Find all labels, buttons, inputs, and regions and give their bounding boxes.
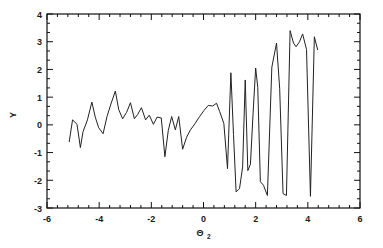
- chart-background: [0, 0, 383, 248]
- x-tick-label: 6: [357, 214, 362, 224]
- y-tick-label: 1: [37, 93, 42, 103]
- line-chart-svg: -6-4-20246-3-2-101234 Y Θ 2: [0, 0, 383, 248]
- y-axis-title: Y: [8, 112, 18, 118]
- y-tick-label: -2: [34, 176, 42, 186]
- y-tick-label: 4: [37, 10, 42, 20]
- y-tick-label: -1: [34, 148, 42, 158]
- x-axis-title: Θ: [196, 228, 203, 238]
- x-tick-label: -2: [147, 214, 155, 224]
- y-tick-label: -3: [34, 204, 42, 214]
- x-tick-label: -4: [95, 214, 103, 224]
- y-tick-label: 3: [37, 37, 42, 47]
- x-tick-label: 2: [253, 214, 258, 224]
- chart-figure: -6-4-20246-3-2-101234 Y Θ 2: [0, 0, 383, 248]
- y-tick-label: 0: [37, 120, 42, 130]
- y-tick-label: 2: [37, 65, 42, 75]
- x-tick-label: 0: [201, 214, 206, 224]
- x-tick-label: 4: [305, 214, 310, 224]
- x-tick-label: -6: [43, 214, 51, 224]
- x-axis-title-subscript: 2: [207, 233, 211, 240]
